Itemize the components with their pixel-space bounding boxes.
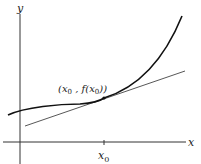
y-axis-label: y bbox=[16, 2, 24, 15]
x0-tick-label: x0 bbox=[98, 149, 109, 164]
tangent-point bbox=[102, 96, 105, 99]
curve-f bbox=[8, 16, 182, 115]
x-axis-label: x bbox=[188, 136, 195, 149]
point-label: (x0 , f(x0)) bbox=[58, 83, 107, 96]
tangent-diagram: y x x0 (x0 , f(x0)) bbox=[0, 0, 201, 164]
